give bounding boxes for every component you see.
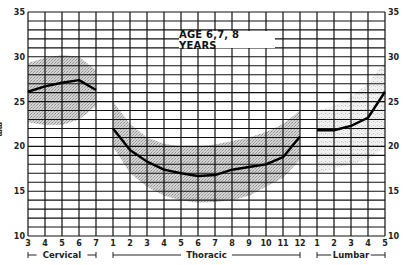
x-tick: 2 (127, 239, 133, 248)
region-labels: CervicalThoracicLumbar (28, 250, 385, 260)
x-tick: 6 (195, 239, 201, 248)
x-tick: 5 (178, 239, 184, 248)
x-tick: 3 (348, 239, 354, 248)
x-tick: 7 (212, 239, 218, 248)
x-tick: 6 (76, 239, 82, 248)
y-tick-left: 20 (14, 142, 26, 151)
x-tick: 7 (93, 239, 99, 248)
y-tick-left: 10 (14, 232, 26, 241)
y-axis-label: mm (0, 122, 4, 137)
x-tick: 5 (382, 239, 388, 248)
y-tick-left: 35 (14, 8, 26, 17)
band-thoracic (113, 102, 300, 203)
x-tick: 3 (25, 239, 31, 248)
chart-title: AGE 6,7, 8 YEARS (179, 31, 275, 48)
x-tick: 1 (110, 239, 116, 248)
y-tick-right: 25 (388, 98, 400, 107)
x-tick: 11 (277, 239, 289, 248)
y-tick-right: 35 (388, 8, 400, 17)
x-tick: 1 (314, 239, 320, 248)
y-tick-left: 30 (14, 53, 26, 62)
y-tick-right: 10 (388, 232, 400, 241)
x-tick: 9 (246, 239, 252, 248)
y-tick-right: 20 (388, 142, 400, 151)
x-tick: 4 (365, 239, 371, 248)
x-tick: 5 (59, 239, 65, 248)
region-label-thoracic: Thoracic (186, 250, 227, 260)
region-label-lumbar: Lumbar (333, 250, 370, 260)
x-tick: 3 (144, 239, 150, 248)
x-tick: 12 (294, 239, 305, 248)
x-tick: 8 (229, 239, 235, 248)
y-tick-left: 15 (14, 187, 26, 196)
y-tick-left: 25 (14, 98, 26, 107)
x-tick: 4 (42, 239, 48, 248)
region-label-cervical: Cervical (43, 250, 81, 260)
x-tick: 4 (161, 239, 167, 248)
x-tick: 2 (331, 239, 337, 248)
x-tick: 10 (260, 239, 272, 248)
y-tick-right: 15 (388, 187, 400, 196)
y-tick-right: 30 (388, 53, 400, 62)
